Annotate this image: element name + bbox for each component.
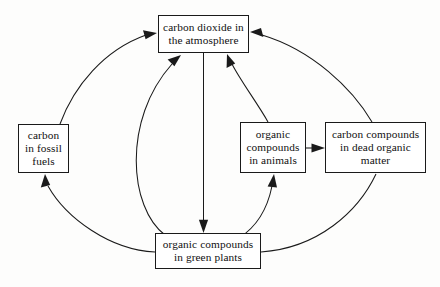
carbon-cycle-diagram: carbon dioxide in the atmosphere carbon … <box>0 0 440 287</box>
edge-animals-to-atmosphere <box>227 54 268 122</box>
edge-plants-to-fossil <box>41 174 155 252</box>
edge-plants-to-animals <box>239 174 277 238</box>
edge-atmosphere-to-plants <box>199 53 208 233</box>
edge-plants-to-atmosphere <box>136 55 181 235</box>
node-organic-compounds-in-animals: organic compounds in animals <box>240 122 306 173</box>
node-label: carbon dioxide in the atmosphere <box>160 21 247 48</box>
node-label: organic compounds in green plants <box>160 238 256 265</box>
node-carbon-in-fossil-fuels: carbon in fossil fuels <box>18 124 69 173</box>
node-organic-compounds-in-green-plants: organic compounds in green plants <box>155 233 261 269</box>
node-label: carbon compounds in dead organic matter <box>329 128 422 168</box>
node-label: organic compounds in animals <box>244 128 303 168</box>
node-carbon-dioxide-in-the-atmosphere: carbon dioxide in the atmosphere <box>158 15 249 53</box>
node-label: carbon in fossil fuels <box>22 129 65 169</box>
edge-animals-to-dead <box>306 143 325 152</box>
edge-dead-to-atmosphere <box>250 28 372 122</box>
node-carbon-compounds-in-dead-organic-matter: carbon compounds in dead organic matter <box>325 122 426 173</box>
edge-fossil-to-atmosphere <box>60 30 157 124</box>
edge-plants-to-dead <box>261 174 376 252</box>
